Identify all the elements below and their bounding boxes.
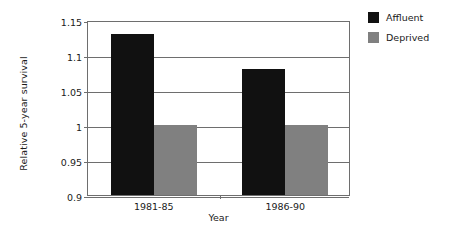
y-tick-mark	[84, 22, 88, 23]
chart-legend: AffluentDeprived	[368, 12, 429, 43]
y-tick-label: 1.15	[61, 17, 82, 28]
legend-label: Deprived	[386, 32, 429, 43]
y-tick-mark	[84, 162, 88, 163]
bar-affluent-1981-85	[111, 34, 154, 195]
legend-label: Affluent	[386, 12, 423, 23]
y-axis-title: Relative 5-year survival	[18, 29, 29, 199]
gridline	[88, 197, 349, 198]
legend-swatch-deprived	[368, 32, 379, 43]
plot-area: 1.151.11.0510.950.9 1981-851986-90	[87, 21, 350, 196]
y-tick-label: 1	[76, 122, 82, 133]
legend-item-deprived: Deprived	[368, 32, 429, 43]
y-tick-label: 1.1	[67, 52, 82, 63]
x-axis-title: Year	[87, 212, 350, 223]
x-tick-mark	[220, 195, 221, 199]
legend-item-affluent: Affluent	[368, 12, 429, 23]
bar-chart-figure: Relative 5-year survival 1.151.11.0510.9…	[0, 0, 459, 236]
y-tick-label: 0.9	[67, 192, 82, 203]
y-tick-mark	[84, 57, 88, 58]
y-tick-mark	[84, 92, 88, 93]
bar-deprived-1986-90	[285, 125, 328, 195]
bar-deprived-1981-85	[154, 125, 197, 195]
x-tick-label: 1981-85	[134, 201, 174, 212]
bar-affluent-1986-90	[242, 69, 285, 195]
y-tick-mark	[84, 127, 88, 128]
y-tick-mark	[84, 197, 88, 198]
y-tick-label: 1.05	[61, 87, 82, 98]
legend-swatch-affluent	[368, 12, 379, 23]
x-tick-label: 1986-90	[265, 201, 305, 212]
y-tick-label: 0.95	[61, 157, 82, 168]
